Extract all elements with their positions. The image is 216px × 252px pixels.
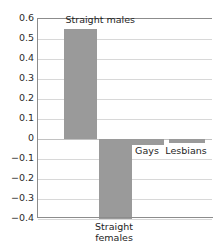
y-axis-tick-label: 0.3 [19,73,34,83]
y-axis-tick-label: 0 [28,133,34,143]
y-axis-tick-label: 0.5 [19,33,34,43]
y-axis-tick-label: 0.4 [19,53,34,63]
y-axis-tick-label: 0.1 [19,113,34,123]
bar-straight-females [99,139,132,219]
y-axis-tick-label: −0.3 [11,193,34,203]
y-axis-tick-label: 0.2 [19,93,34,103]
y-axis-tick-label: −0.2 [11,173,34,183]
bar-lesbians [169,139,205,143]
gridline [38,219,212,220]
bar-straight-males [64,29,97,139]
bar-label-straight-females-line2: females [95,233,133,244]
bar-label-gays: Gays [135,146,159,157]
bar-label-straight-males: Straight males [66,15,135,26]
y-axis-tick-label: 0.6 [19,13,34,23]
x-axis-spine [37,217,213,218]
y-axis-tick-label: −0.1 [11,153,34,163]
bar-chart: 0.60.50.40.30.20.10−0.1−0.2−0.3−0.4 Stra… [0,0,216,252]
y-axis-tick-label: −0.4 [11,213,34,223]
plot-area [37,18,212,218]
bar-label-lesbians: Lesbians [165,146,206,157]
